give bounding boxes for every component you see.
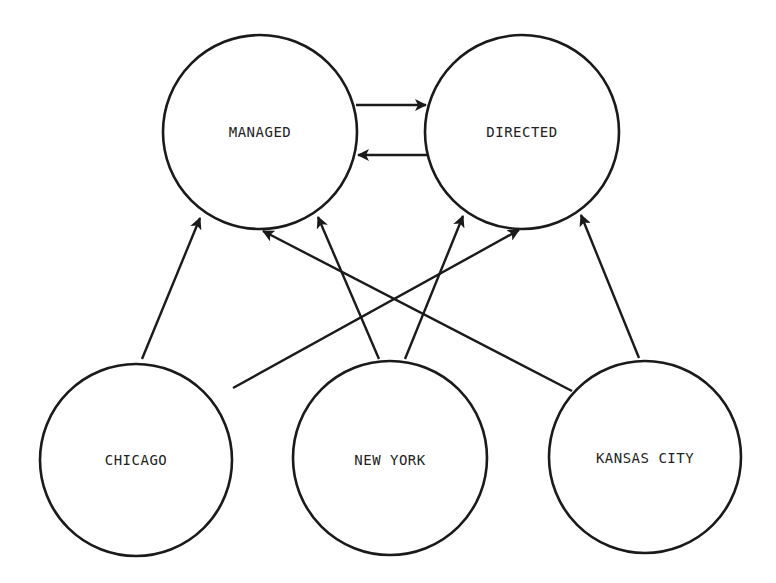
edge-new_york-to-managed (318, 217, 379, 359)
graph-canvas (0, 0, 776, 583)
node-label-directed: DIRECTED (486, 124, 557, 140)
node-label-managed: MANAGED (229, 124, 292, 140)
node-label-new-york: NEW YORK (354, 452, 425, 468)
edge-chicago-to-managed (142, 218, 200, 359)
nodes-group (40, 35, 741, 556)
node-label-kansas-city: KANSAS CITY (596, 450, 694, 466)
node-label-chicago: CHICAGO (105, 452, 168, 468)
edge-kansas_city-to-directed (581, 215, 639, 358)
